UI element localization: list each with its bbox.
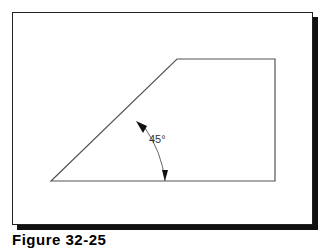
arrowhead-upper <box>136 121 147 133</box>
chamfered-trapezoid <box>51 59 275 181</box>
angle-label: 45° <box>149 133 166 145</box>
arrowhead-lower <box>162 170 168 181</box>
figure-caption: Figure 32-25 <box>12 232 106 247</box>
